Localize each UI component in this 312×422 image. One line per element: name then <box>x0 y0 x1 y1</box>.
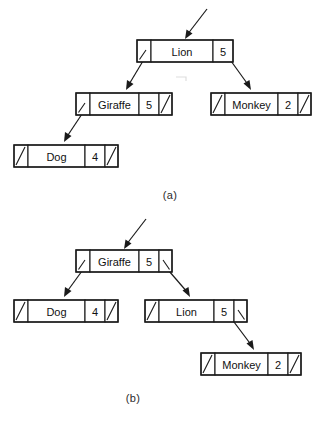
node-monkey-a[interactable]: Monkey 2 <box>211 93 311 115</box>
node-dog-b[interactable]: Dog 4 <box>14 300 118 322</box>
node-giraffe-b[interactable]: Giraffe 5 <box>76 250 172 272</box>
edge-giraffe-to-dog <box>64 114 82 142</box>
node-giraffe-a[interactable]: Giraffe 5 <box>76 93 172 115</box>
node-value-label: 5 <box>146 256 152 268</box>
node-lion-a[interactable]: Lion 5 <box>137 40 233 62</box>
scan-artifact-a <box>176 77 186 81</box>
root-pointer-arrow-b <box>124 219 146 249</box>
node-value-label: 2 <box>275 359 281 371</box>
node-key-label: Dog <box>46 151 66 163</box>
panel-b: Giraffe 5 Dog 4 <box>14 219 301 404</box>
node-value-label: 4 <box>92 306 98 318</box>
caption-b: (b) <box>126 392 141 404</box>
edge-giraffe-to-lion-b <box>169 271 190 297</box>
node-key-label: Giraffe <box>98 256 131 268</box>
node-value-label: 5 <box>221 306 227 318</box>
figure-container: Lion 5 Giraffe 5 <box>0 0 312 422</box>
node-key-label: Monkey <box>232 99 271 111</box>
edge-lion-to-monkey <box>231 61 251 90</box>
node-key-label: Lion <box>176 306 197 318</box>
node-value-label: 4 <box>92 151 98 163</box>
edge-lion-to-monkey-b <box>234 322 254 350</box>
node-key-label: Lion <box>172 46 193 58</box>
edge-giraffe-to-dog-b <box>64 271 82 297</box>
node-key-label: Dog <box>46 306 66 318</box>
node-dog-a[interactable]: Dog 4 <box>14 145 118 167</box>
node-lion-b[interactable]: Lion 5 <box>145 300 247 322</box>
node-monkey-b[interactable]: Monkey 2 <box>201 353 301 375</box>
panel-a: Lion 5 Giraffe 5 <box>14 9 311 201</box>
root-pointer-arrow-a <box>185 9 207 39</box>
node-value-label: 5 <box>220 46 226 58</box>
edge-lion-to-giraffe <box>126 61 143 90</box>
node-key-label: Monkey <box>222 359 261 371</box>
tree-diagram-svg: Lion 5 Giraffe 5 <box>0 0 312 422</box>
caption-a: (a) <box>163 189 178 201</box>
node-value-label: 2 <box>285 99 291 111</box>
node-key-label: Giraffe <box>98 99 131 111</box>
node-value-label: 5 <box>146 99 152 111</box>
